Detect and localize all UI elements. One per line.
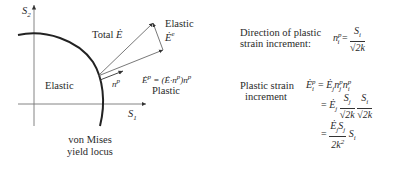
increment-eq-line3: = ĖjSj2k2 Si [321,120,356,150]
increment-label-2: increment [245,91,287,102]
total-strain-label: Total Ė [92,29,122,40]
s1-axis-label: S1 [128,108,137,124]
yield-locus-label-2: yield locus [63,146,117,157]
plastic-strain-label: Plastic [152,85,180,96]
normal-vector-label: np [112,76,120,90]
increment-label-1: Plastic strain [240,80,294,91]
yield-locus-label-1: von Mises [65,134,115,145]
elastic-strain-symbol: Ėe [165,29,175,43]
direction-label-2: strain increment: [240,38,311,49]
plastic-strain-equation: Ėp = (Ė·np)np [142,72,191,86]
direction-label-1: Direction of plastic [240,27,321,38]
elastic-strain-label: Elastic [165,18,194,29]
increment-eq-line2: = Ėj Sj√2k Si√2k [321,92,372,120]
elastic-strain-arrow [153,23,163,50]
s2-axis-label: S2 [22,5,31,21]
elastic-region-label: Elastic [45,80,74,91]
direction-equation: npi = Si√2k [333,25,365,53]
